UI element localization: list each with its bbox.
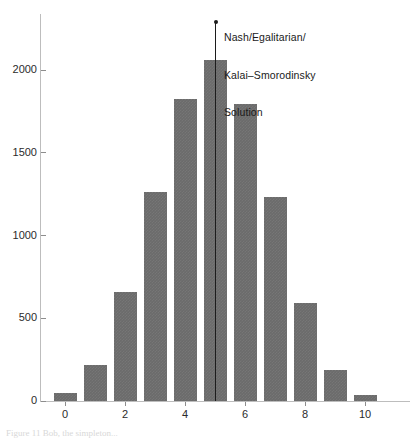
bar (294, 303, 317, 401)
bar (144, 192, 167, 401)
x-tick-label: 6 (230, 408, 260, 420)
x-tick-label: 0 (50, 408, 80, 420)
x-tick-mark (185, 402, 186, 406)
bar (264, 197, 287, 401)
bar-chart-figure: 0500100015002000 0246810 Nash/Egalitaria… (0, 0, 413, 438)
x-tick-mark (65, 402, 66, 406)
bar (354, 395, 377, 401)
plot-area: 0500100015002000 0246810 Nash/Egalitaria… (0, 0, 413, 410)
x-tick-mark (245, 402, 246, 406)
annotation-label-line-1: Nash/Egalitarian/ (224, 31, 316, 44)
bar (234, 104, 257, 401)
x-tick-label: 4 (170, 408, 200, 420)
bar (84, 365, 107, 401)
figure-caption: Figure 11 Bob, the simpleton... (6, 428, 406, 438)
x-tick-label: 10 (350, 408, 380, 420)
x-tick-mark (125, 402, 126, 406)
x-tick-label: 8 (290, 408, 320, 420)
x-tick-label: 2 (110, 408, 140, 420)
x-tick-mark (305, 402, 306, 406)
bar (54, 393, 77, 401)
annotation-vertical-line (215, 22, 216, 401)
x-tick-mark (365, 402, 366, 406)
bars-group (0, 0, 413, 401)
annotation-label-line-3: Solution (224, 106, 316, 119)
bar (324, 370, 347, 401)
x-axis-line (40, 401, 410, 402)
bar (174, 99, 197, 401)
annotation-label: Nash/Egalitarian/ Kalai–Smorodinsky Solu… (224, 6, 316, 144)
annotation-label-line-2: Kalai–Smorodinsky (224, 69, 316, 82)
bar (114, 292, 137, 401)
